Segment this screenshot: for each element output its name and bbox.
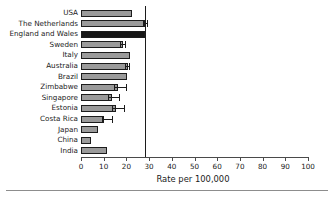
category-label-sweden: Sweden bbox=[50, 40, 78, 49]
plot-area bbox=[81, 8, 308, 157]
x-tick-label-80: 80 bbox=[258, 162, 267, 171]
bar-japan bbox=[81, 126, 98, 133]
x-axis-title: Rate per 100,000 bbox=[0, 174, 334, 184]
category-label-estonia: Estonia bbox=[52, 103, 78, 112]
x-tick-70 bbox=[240, 157, 241, 161]
bar-estonia bbox=[81, 105, 116, 112]
x-axis-title-text: Rate per 100,000 bbox=[104, 174, 229, 184]
error-bar-zimbabwe bbox=[114, 84, 127, 91]
category-label-italy: Italy bbox=[62, 50, 78, 59]
x-tick-label-10: 10 bbox=[99, 162, 108, 171]
error-bar-australia bbox=[125, 63, 130, 70]
x-tick-label-0: 0 bbox=[79, 162, 84, 171]
category-label-zimbabwe: Zimbabwe bbox=[40, 82, 78, 91]
category-label-india: India bbox=[60, 146, 78, 155]
bar-india bbox=[81, 147, 107, 154]
bar-zimbabwe bbox=[81, 84, 118, 91]
x-tick-label-40: 40 bbox=[167, 162, 176, 171]
x-tick-50 bbox=[195, 157, 196, 161]
category-label-singapore: Singapore bbox=[42, 93, 78, 102]
x-tick-label-90: 90 bbox=[281, 162, 290, 171]
footer-divider bbox=[6, 190, 328, 191]
error-bar-estonia bbox=[112, 105, 125, 112]
category-label-england-and-wales: England and Wales bbox=[10, 29, 78, 38]
category-label-costa-rica: Costa Rica bbox=[40, 114, 78, 123]
x-tick-80 bbox=[263, 157, 264, 161]
reference-line bbox=[145, 6, 146, 158]
x-tick-10 bbox=[104, 157, 105, 161]
x-tick-0 bbox=[81, 157, 82, 161]
x-tick-label-100: 100 bbox=[301, 162, 315, 171]
category-label-the-netherlands: The Netherlands bbox=[19, 19, 78, 28]
bar-australia bbox=[81, 63, 128, 70]
x-tick-label-70: 70 bbox=[235, 162, 244, 171]
error-bar-sweden bbox=[120, 41, 126, 48]
bar-brazil bbox=[81, 73, 127, 80]
bar-italy bbox=[81, 52, 130, 59]
x-tick-label-20: 20 bbox=[122, 162, 131, 171]
bar-usa bbox=[81, 10, 132, 17]
bar-costa-rica bbox=[81, 116, 104, 123]
category-label-usa: USA bbox=[63, 8, 78, 17]
category-label-china: China bbox=[57, 135, 78, 144]
x-tick-label-30: 30 bbox=[145, 162, 154, 171]
x-tick-90 bbox=[285, 157, 286, 161]
bar-chart-figure: USA The Netherlands England and Wales Sw… bbox=[0, 0, 334, 198]
error-bar-costa-rica bbox=[102, 116, 113, 123]
category-label-column: USA The Netherlands England and Wales Sw… bbox=[0, 0, 78, 155]
x-tick-40 bbox=[172, 157, 173, 161]
x-tick-60 bbox=[217, 157, 218, 161]
x-tick-100 bbox=[308, 157, 309, 161]
x-tick-label-60: 60 bbox=[213, 162, 222, 171]
error-bar-singapore bbox=[108, 94, 120, 101]
bar-england-and-wales bbox=[81, 31, 145, 38]
x-tick-20 bbox=[126, 157, 127, 161]
category-label-japan: Japan bbox=[58, 125, 78, 134]
bar-china bbox=[81, 137, 91, 144]
category-label-australia: Australia bbox=[46, 61, 78, 70]
category-label-brazil: Brazil bbox=[58, 72, 78, 81]
x-tick-30 bbox=[149, 157, 150, 161]
bar-the-netherlands bbox=[81, 20, 145, 27]
x-tick-label-50: 50 bbox=[190, 162, 199, 171]
bar-sweden bbox=[81, 41, 123, 48]
